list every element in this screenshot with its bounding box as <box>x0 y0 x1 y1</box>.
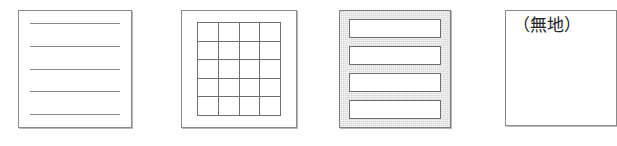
rule-line <box>30 91 120 92</box>
grid-cell <box>240 23 261 42</box>
grid-cell <box>198 60 219 79</box>
plain-paper-sample: （無地） <box>505 10 617 126</box>
grid-cell <box>198 23 219 42</box>
rule-line <box>30 23 120 24</box>
rule-line <box>30 46 120 47</box>
grid-cell <box>240 42 261 61</box>
ruled-paper-sample <box>18 10 132 128</box>
band <box>349 46 441 65</box>
grid-cell <box>260 23 281 42</box>
grid-cell <box>240 60 261 79</box>
grid-cell <box>219 79 240 98</box>
grid-cell <box>198 42 219 61</box>
grid-cell <box>219 23 240 42</box>
rule-line-group <box>30 23 120 115</box>
grid-cell <box>260 60 281 79</box>
grid-paper-sample <box>181 10 297 128</box>
grid-cell <box>219 42 240 61</box>
rule-line <box>30 114 120 115</box>
band <box>349 100 441 119</box>
grid-cell <box>260 79 281 98</box>
band-group <box>349 19 441 119</box>
grid-cell <box>219 60 240 79</box>
grid-cell-group <box>197 22 281 116</box>
plain-paper-label: （無地） <box>513 15 581 35</box>
grid-cell <box>260 97 281 116</box>
grid-cell <box>198 79 219 98</box>
rule-line <box>30 69 120 70</box>
banded-paper-sample <box>339 10 451 128</box>
grid-cell <box>240 97 261 116</box>
grid-cell <box>219 97 240 116</box>
grid-cell <box>198 97 219 116</box>
band <box>349 73 441 92</box>
band <box>349 19 441 38</box>
grid-cell <box>240 79 261 98</box>
grid-cell <box>260 42 281 61</box>
